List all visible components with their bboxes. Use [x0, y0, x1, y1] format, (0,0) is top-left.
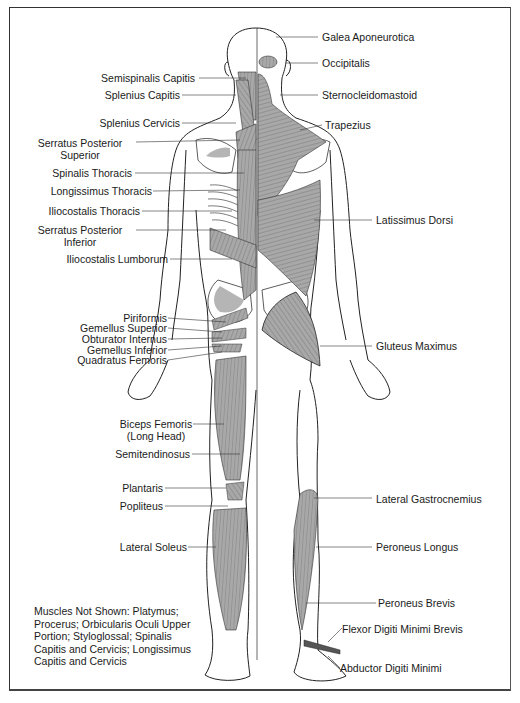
label-semispinalis-capitis: Semispinalis Capitis: [101, 72, 195, 84]
label-sternocleidomastoid: Sternocleidomastoid: [322, 89, 417, 101]
label-splenius-capitis: Splenius Capitis: [105, 89, 180, 101]
label-line-2: Superior: [28, 149, 132, 161]
label-splenius-cervicis: Splenius Cervicis: [99, 117, 180, 129]
label-line-1: Serratus Posterior: [28, 137, 132, 149]
note-line: Portion; Styloglossal; Spinalis: [34, 630, 194, 643]
label-trapezius: Trapezius: [325, 119, 371, 131]
label-lateral-gastrocnemius: Lateral Gastrocnemius: [376, 493, 482, 505]
label-popliteus: Popliteus: [120, 500, 163, 512]
note-line: Muscles Not Shown: Platymus;: [34, 605, 194, 618]
label-serratus-posterior-inferior: Serratus Posterior Inferior: [28, 224, 132, 248]
label-gluteus-maximus: Gluteus Maximus: [376, 340, 457, 352]
note-line: Capitis and Cervicis: [34, 655, 194, 668]
label-iliocostalis-lumborum: Iliocostalis Lumborum: [66, 253, 168, 265]
label-plantaris: Plantaris: [122, 482, 163, 494]
label-longissimus-thoracis: Longissimus Thoracis: [51, 185, 152, 197]
label-serratus-posterior-superior: Serratus Posterior Superior: [28, 137, 132, 161]
note-line: Capitis and Cervicis; Longissimus: [34, 643, 194, 656]
label-occipitalis: Occipitalis: [322, 57, 370, 69]
label-galea-aponeurotica: Galea Aponeurotica: [322, 31, 414, 43]
label-spinalis-thoracis: Spinalis Thoracis: [52, 167, 132, 179]
label-peroneus-brevis: Peroneus Brevis: [378, 597, 455, 609]
label-iliocostalis-thoracis: Iliocostalis Thoracis: [49, 205, 140, 217]
label-latissimus-dorsi: Latissimus Dorsi: [376, 214, 453, 226]
label-quadratus-femoris: Quadratus Femoris: [77, 354, 167, 366]
label-lateral-soleus: Lateral Soleus: [120, 541, 187, 553]
label-abductor-digiti-minimi: Abductor Digiti Minimi: [340, 662, 442, 674]
label-biceps-femoris: Biceps Femoris (Long Head): [118, 418, 194, 442]
label-semitendinosus: Semitendinosus: [115, 448, 190, 460]
note-line: Procerus; Orbicularis Oculi Upper: [34, 618, 194, 631]
label-line-1: Serratus Posterior: [28, 224, 132, 236]
label-flexor-digiti-minimi-brevis: Flexor Digiti Minimi Brevis: [342, 623, 463, 635]
muscles-not-shown-note: Muscles Not Shown: Platymus; Procerus; O…: [34, 605, 194, 668]
label-line-1: Biceps Femoris: [118, 418, 194, 430]
label-line-2: Inferior: [28, 236, 132, 248]
label-line-2: (Long Head): [118, 430, 194, 442]
label-peroneus-longus: Peroneus Longus: [376, 541, 458, 553]
